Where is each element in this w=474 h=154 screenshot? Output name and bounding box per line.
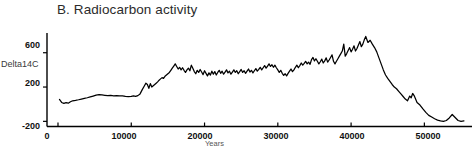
radiocarbon-activity-chart: B. Radiocarbon activity Delta14C 600 200… [0, 0, 474, 154]
plot-area [0, 0, 474, 154]
radiocarbon-data-line [59, 36, 463, 121]
axes [43, 33, 472, 127]
